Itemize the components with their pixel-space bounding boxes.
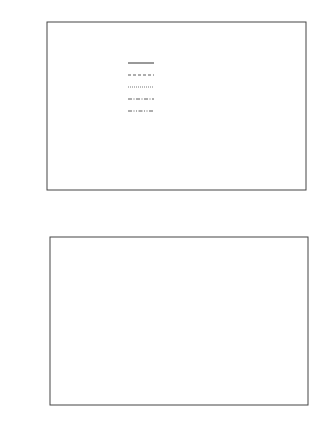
figure	[0, 0, 325, 447]
bottom-chart	[50, 237, 308, 405]
legend	[128, 63, 154, 111]
top-chart	[47, 22, 306, 190]
top-plot-frame	[47, 22, 306, 190]
bottom-plot-frame	[50, 237, 308, 405]
